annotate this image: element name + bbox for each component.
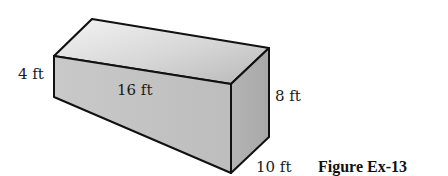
- left-height-label: 4 ft: [18, 65, 44, 83]
- length-label: 16 ft: [117, 81, 152, 99]
- trapezoidal-prism-figure: 4 ft 16 ft 8 ft 10 ft Figure Ex-13: [0, 0, 448, 176]
- width-label: 10 ft: [256, 158, 291, 176]
- figure-caption: Figure Ex-13: [318, 158, 407, 176]
- right-height-label: 8 ft: [275, 87, 301, 105]
